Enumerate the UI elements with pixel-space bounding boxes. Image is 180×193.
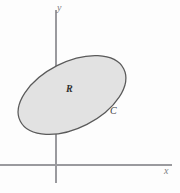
figure-canvas: y x R C: [0, 0, 180, 193]
coordinate-plane-diagram: [0, 0, 180, 193]
x-axis-label: x: [164, 166, 168, 176]
region-label: R: [66, 84, 73, 94]
region-R-ellipse: [5, 39, 138, 150]
region-group: [5, 39, 138, 150]
curve-label: C: [110, 106, 117, 116]
y-axis-label: y: [57, 3, 61, 13]
